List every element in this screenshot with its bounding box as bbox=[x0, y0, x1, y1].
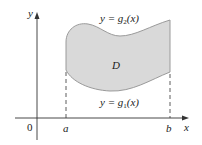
region-label: D bbox=[111, 59, 120, 71]
bound-a-label: a bbox=[63, 122, 69, 134]
y-axis-arrow-icon bbox=[35, 12, 40, 19]
lower-curve-label: y = g1(x) bbox=[99, 96, 139, 110]
bound-b-label: b bbox=[166, 122, 172, 134]
x-axis-label: x bbox=[183, 121, 189, 133]
diagram-svg: y x 0 a b D y = g2(x) y = g1(x) bbox=[0, 0, 202, 145]
upper-curve-label: y = g2(x) bbox=[99, 12, 139, 26]
x-axis-arrow-icon bbox=[182, 116, 189, 121]
y-axis-label: y bbox=[27, 7, 33, 19]
region-d bbox=[66, 20, 170, 91]
origin-label: 0 bbox=[27, 121, 33, 133]
diagram-canvas: y x 0 a b D y = g2(x) y = g1(x) bbox=[0, 0, 202, 145]
